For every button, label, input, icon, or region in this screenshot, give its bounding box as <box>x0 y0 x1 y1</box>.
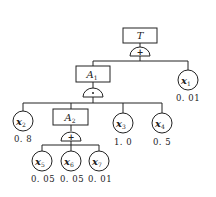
basic-event-x1: x1 0. 01 <box>176 70 200 103</box>
event-subscript: 5 <box>41 161 45 168</box>
basic-event-x4: x4 0. 5 <box>152 113 172 147</box>
basic-event-x3: x3 1. 0 <box>113 113 133 147</box>
event-probability: 0. 01 <box>88 174 112 184</box>
gate-symbol: + <box>68 133 75 142</box>
event-subscript: 7 <box>98 161 102 168</box>
event-symbol: A <box>63 112 71 123</box>
event-subscript: 2 <box>72 117 76 124</box>
intermediate-event-A1: A1 <box>76 66 110 82</box>
or-gate-icon: + <box>61 132 81 142</box>
event-probability: 0. 05 <box>31 174 55 184</box>
or-gate-icon: + <box>130 47 150 57</box>
basic-event-x2: x2 0. 8 <box>13 111 33 144</box>
event-probability: 1. 0 <box>114 137 132 147</box>
event-probability: 0. 5 <box>153 137 171 147</box>
event-probability: 0. 8 <box>14 134 32 144</box>
basic-event-x7: x7 0. 01 <box>88 151 112 184</box>
event-subscript: 3 <box>122 123 126 130</box>
intermediate-event-A2: A2 <box>53 109 88 125</box>
event-subscript: 6 <box>70 161 74 168</box>
basic-event-x6: x6 0. 05 <box>60 151 84 184</box>
event-probability: 0. 01 <box>176 93 200 103</box>
gate-dot <box>92 92 94 94</box>
event-subscript: 4 <box>161 123 165 130</box>
event-subscript: 2 <box>22 121 26 128</box>
event-subscript: 1 <box>187 80 191 87</box>
event-probability: 0. 05 <box>60 174 84 184</box>
event-symbol: A <box>85 69 93 80</box>
fault-tree-diagram: T + x1 0. 01 A1 x2 <box>0 0 216 197</box>
gate-symbol: + <box>137 48 144 57</box>
and-gate-icon <box>83 88 103 97</box>
top-event-T: T <box>123 28 157 43</box>
event-subscript: 1 <box>94 74 98 81</box>
basic-event-x5: x5 0. 05 <box>31 151 55 184</box>
